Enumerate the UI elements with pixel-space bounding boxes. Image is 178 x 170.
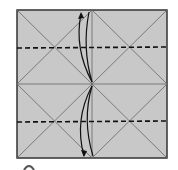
step-marker	[24, 166, 34, 170]
crease-lines	[17, 10, 167, 158]
origami-diagram	[0, 0, 178, 170]
